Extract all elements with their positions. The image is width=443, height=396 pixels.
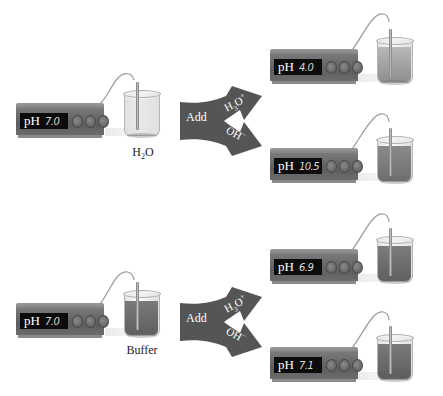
buffer-base-result: pH 7.1	[0, 0, 443, 396]
beaker-liquid	[378, 344, 411, 379]
beaker	[377, 334, 413, 380]
meter-knobs	[326, 359, 363, 372]
ph-probe	[389, 326, 392, 374]
ph-meter: pH 7.1	[270, 347, 358, 381]
ph-display: pH 7.1	[274, 357, 322, 373]
ph-label: pH	[278, 357, 294, 373]
knob-icon	[326, 359, 337, 372]
knob-icon	[352, 359, 363, 372]
knob-icon	[339, 359, 350, 372]
ph-value: 7.1	[299, 360, 313, 371]
